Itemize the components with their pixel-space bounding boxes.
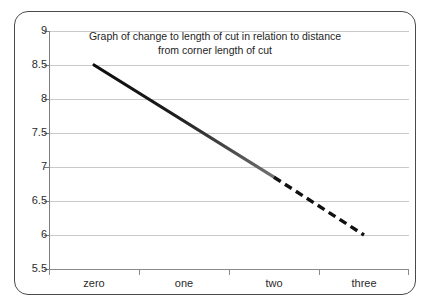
plot-area [49,31,409,269]
x-tick-1 [139,269,140,275]
gridline-6-5 [49,201,409,202]
gridline-8 [49,99,409,100]
y-axis-label-6-5: 6.5 [7,195,47,206]
x-axis-label-two: two [229,278,319,289]
x-axis-label-three: three [319,278,409,289]
chart-card: Graph of change to length of cut in rela… [14,11,416,295]
y-axis-label-7-5: 7.5 [7,127,47,138]
y-axis-label-7: 7 [7,161,47,172]
y-axis-label-8: 8 [7,93,47,104]
y-axis-label-9: 9 [7,25,47,36]
x-tick-3 [319,269,320,275]
x-axis-label-one: one [139,278,229,289]
y-axis-line [49,31,50,269]
x-tick-4 [408,269,409,275]
gridline-6 [49,235,409,236]
gridline-7 [49,167,409,168]
y-axis-label-8-5: 8.5 [7,59,47,70]
x-tick-2 [229,269,230,275]
gridline-8-5 [49,65,409,66]
gridline-9 [49,31,409,32]
y-axis-labels: 9 8.5 8 7.5 7 6.5 6 5.5 [1,12,47,294]
x-tick-0 [49,269,50,275]
x-axis-label-zero: zero [49,278,139,289]
y-axis-label-5-5: 5.5 [7,263,47,274]
gridline-7-5 [49,133,409,134]
y-axis-label-6: 6 [7,229,47,240]
